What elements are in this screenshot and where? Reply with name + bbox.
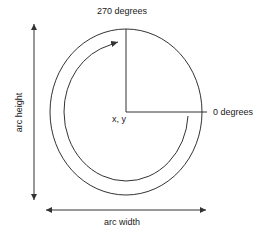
arc-diagram-container: 270 degrees 0 degrees x, y arc width arc…: [0, 0, 276, 235]
label-270-degrees: 270 degrees: [97, 6, 147, 17]
label-center-point: x, y: [112, 114, 126, 125]
arc-direction-arrow: [110, 42, 118, 45]
label-0-degrees: 0 degrees: [213, 107, 253, 118]
label-arc-width: arc width: [104, 217, 140, 228]
label-arc-height: arc height: [14, 83, 25, 143]
